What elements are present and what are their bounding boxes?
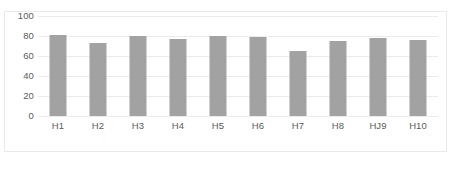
y-axis: 020406080100 xyxy=(4,16,34,116)
x-tick-label: H1 xyxy=(52,121,64,131)
y-tick-label: 0 xyxy=(29,111,34,121)
bar-h10[interactable] xyxy=(410,40,427,116)
bar-chart-figure: 020406080100 H1H2H3H4H5H6H7H8HJ9H10 xyxy=(0,0,456,175)
bar-hj9[interactable] xyxy=(370,38,387,116)
bar-slot xyxy=(278,16,318,116)
x-axis: H1H2H3H4H5H6H7H8HJ9H10 xyxy=(38,121,438,137)
bar-h1[interactable] xyxy=(50,35,67,116)
bar-h4[interactable] xyxy=(170,39,187,116)
bar-h2[interactable] xyxy=(90,43,107,116)
bar-slot xyxy=(118,16,158,116)
bar-slot xyxy=(38,16,78,116)
x-tick-label: H3 xyxy=(132,121,144,131)
bar-slot xyxy=(198,16,238,116)
x-tick-label: H10 xyxy=(409,121,427,131)
x-tick-label: H2 xyxy=(92,121,104,131)
bar-h5[interactable] xyxy=(210,36,227,116)
y-tick-label: 60 xyxy=(23,51,34,61)
bar-h3[interactable] xyxy=(130,36,147,116)
y-tick-label: 100 xyxy=(18,11,34,21)
bar-h8[interactable] xyxy=(330,41,347,116)
y-tick-label: 40 xyxy=(23,71,34,81)
bar-slot xyxy=(358,16,398,116)
y-tick-label: 20 xyxy=(23,91,34,101)
bar-slot xyxy=(78,16,118,116)
bar-slot xyxy=(158,16,198,116)
x-tick-label: H7 xyxy=(292,121,304,131)
gridline xyxy=(38,116,438,117)
bar-slot xyxy=(398,16,438,116)
bar-h6[interactable] xyxy=(250,37,267,116)
x-tick-label: HJ9 xyxy=(369,121,386,131)
bar-slot xyxy=(318,16,358,116)
x-tick-label: H5 xyxy=(212,121,224,131)
bar-h7[interactable] xyxy=(290,51,307,116)
y-tick-label: 80 xyxy=(23,31,34,41)
x-tick-label: H4 xyxy=(172,121,184,131)
bar-series xyxy=(38,16,438,116)
chart-plot-area xyxy=(38,16,438,116)
bar-slot xyxy=(238,16,278,116)
x-tick-label: H8 xyxy=(332,121,344,131)
x-tick-label: H6 xyxy=(252,121,264,131)
